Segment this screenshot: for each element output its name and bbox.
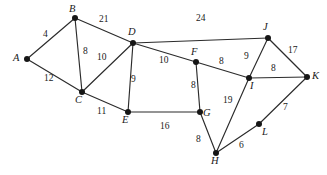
graph-edge-d-j [133, 38, 268, 43]
graph-vertex-a [24, 56, 30, 62]
edge-weight-g-h: 8 [196, 135, 201, 145]
vertex-label-e: E [122, 115, 129, 126]
edge-weight-i-k: 8 [271, 64, 276, 74]
vertex-label-b: B [69, 4, 76, 15]
vertex-label-a: A [13, 53, 20, 64]
graph-edge-i-j [249, 38, 268, 78]
graph-vertex-k [304, 74, 310, 80]
edge-weight-c-e: 11 [97, 107, 106, 117]
graph-edge-c-d [82, 43, 133, 92]
edge-weight-b-c: 8 [83, 47, 88, 57]
edge-weight-c-d: 10 [97, 53, 107, 63]
edge-weight-h-i: 19 [223, 96, 233, 106]
vertex-label-l: L [262, 127, 268, 138]
edge-weight-h-l: 6 [239, 141, 244, 151]
graph-edge-l-k [259, 77, 307, 124]
vertex-label-h: H [211, 156, 219, 167]
graph-canvas [0, 0, 327, 175]
graph-vertex-f [193, 59, 199, 65]
graph-edge-b-c [75, 18, 82, 92]
edge-weight-l-k: 7 [283, 103, 288, 113]
vertex-label-g: G [203, 108, 211, 119]
graph-vertex-j [265, 35, 271, 41]
edge-weight-e-g: 16 [160, 122, 170, 132]
edge-weight-d-e: 9 [131, 75, 136, 85]
graph-vertex-b [72, 15, 78, 21]
edge-weight-f-i: 8 [219, 57, 224, 67]
vertex-label-d: D [128, 27, 136, 38]
edge-weight-i-j: 9 [244, 52, 249, 62]
graph-vertex-d [130, 40, 136, 46]
graph-edge-a-c [27, 59, 82, 92]
graph-edge-a-b [27, 18, 75, 59]
graph-figure: 4128211011910241688819698177ABCDEFGHIJKL [0, 0, 327, 175]
edge-weight-f-g: 8 [191, 81, 196, 91]
vertex-label-j: J [263, 22, 268, 33]
graph-edge-f-g [196, 62, 200, 112]
edge-weight-a-b: 4 [43, 30, 48, 40]
vertex-label-k: K [312, 71, 319, 82]
vertex-label-i: I [250, 81, 254, 92]
edge-weight-j-k: 17 [288, 46, 298, 56]
vertex-label-c: C [75, 95, 82, 106]
edge-weight-a-c: 12 [44, 74, 54, 84]
edge-weight-d-f: 10 [159, 56, 169, 66]
vertex-label-f: F [191, 47, 198, 58]
edge-weight-b-d: 21 [99, 15, 109, 25]
graph-edge-i-k [249, 77, 307, 78]
edge-weight-d-j: 24 [196, 14, 206, 24]
